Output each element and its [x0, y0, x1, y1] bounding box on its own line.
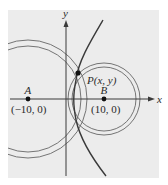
x-axis-label: x — [156, 93, 162, 105]
y-axis-label: y — [62, 7, 68, 19]
point-a-coords: (−10, 0) — [11, 103, 47, 116]
point-b-coords: (10, 0) — [91, 103, 121, 116]
point-b — [102, 97, 107, 102]
point-a-label: A — [24, 84, 32, 96]
point-p-label: P(x, y) — [86, 74, 117, 87]
point-p — [75, 70, 80, 75]
hyperbola-diagram: x y A (−10, 0) B (10, 0) P(x, y) — [0, 0, 168, 185]
point-a — [26, 97, 31, 102]
